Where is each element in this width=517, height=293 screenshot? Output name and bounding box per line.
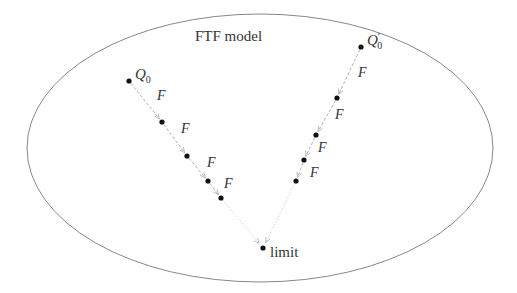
map-label-F: F [223, 176, 233, 191]
map-arrow [131, 83, 160, 119]
start-point-label: Q0 [135, 66, 151, 85]
limit-label: limit [270, 244, 299, 260]
map-arrow [189, 158, 205, 178]
iterate-point [184, 153, 189, 158]
start-point-label: Q′0 [367, 30, 382, 51]
limit-point [260, 245, 265, 250]
map-label-F: F [180, 121, 190, 136]
convergence-arrow [266, 184, 295, 243]
map-arrow [306, 138, 315, 157]
map-arrow [339, 50, 360, 95]
map-label-F: F [334, 107, 344, 122]
ftf-model-diagram: FTF model FFFFQ0FFFFQ′0 limit [0, 0, 517, 293]
region-title: FTF model [195, 28, 262, 44]
map-arrow [318, 101, 336, 132]
model-region-ellipse [27, 14, 493, 282]
iteration-chain-1: FFFFQ0 [126, 66, 259, 243]
iterate-point [293, 178, 298, 183]
map-arrow [297, 163, 303, 177]
diagram-canvas: FTF model FFFFQ0FFFFQ′0 limit [0, 0, 517, 293]
map-label-F: F [309, 165, 319, 180]
iterate-point [218, 195, 223, 200]
iterate-point [334, 95, 339, 100]
convergence-arrow [223, 200, 259, 243]
iterate-point [313, 132, 318, 137]
start-point [358, 44, 363, 49]
map-label-F: F [357, 65, 367, 80]
map-label-F: F [156, 88, 166, 103]
start-point [126, 78, 131, 83]
iterate-point [159, 119, 164, 124]
map-label-F: F [317, 140, 327, 155]
map-arrow [210, 183, 219, 194]
iterate-point [205, 178, 210, 183]
map-label-F: F [206, 155, 216, 170]
iteration-chain-2: FFFFQ′0 [266, 30, 383, 243]
iterate-point [301, 157, 306, 162]
